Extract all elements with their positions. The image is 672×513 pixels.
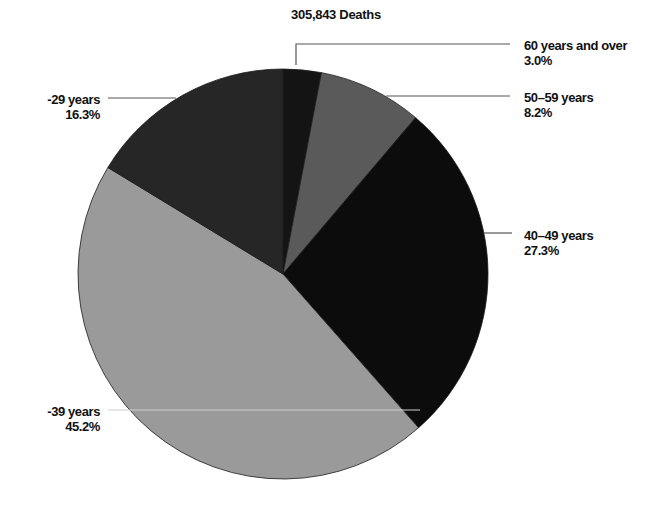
label-20-29-name: -29 years (0, 92, 100, 107)
label-40-49-pct: 27.3% (524, 243, 593, 258)
leader-line-60-and-over (296, 44, 510, 65)
chart-title: 305,843 Deaths (0, 7, 672, 22)
label-30-39: -39 years 45.2% (0, 404, 100, 434)
label-60-and-over-pct: 3.0% (524, 53, 627, 68)
label-30-39-pct: 45.2% (0, 419, 100, 434)
label-40-49-name: 40–49 years (524, 228, 593, 243)
label-50-59: 50–59 years 8.2% (524, 90, 593, 120)
label-40-49: 40–49 years 27.3% (524, 228, 593, 258)
label-30-39-name: -39 years (0, 404, 100, 419)
label-50-59-pct: 8.2% (524, 105, 593, 120)
label-60-and-over: 60 years and over 3.0% (524, 38, 627, 68)
pie-slices (78, 69, 488, 479)
label-60-and-over-name: 60 years and over (524, 38, 627, 53)
label-50-59-name: 50–59 years (524, 90, 593, 105)
label-20-29: -29 years 16.3% (0, 92, 100, 122)
label-20-29-pct: 16.3% (0, 107, 100, 122)
